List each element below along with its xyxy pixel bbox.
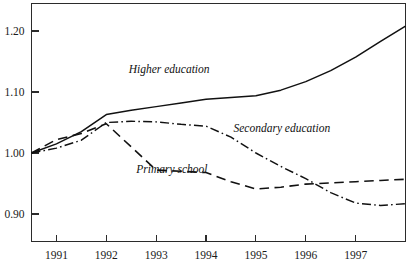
y-axis-tick-labels: 0.901.001.101.20 xyxy=(4,25,24,220)
x-axis-ticks xyxy=(56,235,355,242)
x-axis-tick-labels: 1991199219931994199519961997 xyxy=(45,249,367,261)
series-label-higher-education: Higher education xyxy=(128,63,210,76)
series-line-primary-school xyxy=(32,124,406,189)
series-label-primary-school: Primary school xyxy=(135,163,207,176)
y-tick-label: 1.00 xyxy=(4,147,24,159)
plot-frame xyxy=(32,4,406,242)
series-annotation-labels: Higher educationSecondary educationPrima… xyxy=(128,63,331,175)
series-line-higher-education xyxy=(32,26,406,153)
x-tick-label: 1991 xyxy=(45,249,68,261)
series-line-secondary-education xyxy=(32,121,406,205)
series-label-secondary-education: Secondary education xyxy=(233,122,330,135)
y-axis-ticks xyxy=(32,31,39,214)
y-tick-label: 0.90 xyxy=(4,208,24,220)
y-tick-label: 1.20 xyxy=(4,25,24,37)
x-tick-label: 1993 xyxy=(145,249,168,261)
data-series-group xyxy=(32,26,406,205)
line-chart: 0.901.001.101.20 19911992199319941995199… xyxy=(0,0,413,267)
x-tick-label: 1992 xyxy=(95,249,118,261)
chart-container: 0.901.001.101.20 19911992199319941995199… xyxy=(0,0,413,267)
x-tick-label: 1997 xyxy=(344,249,367,261)
x-tick-label: 1996 xyxy=(294,249,317,261)
x-tick-label: 1994 xyxy=(195,249,218,261)
x-tick-label: 1995 xyxy=(244,249,267,261)
axis-frame xyxy=(32,4,406,242)
y-tick-label: 1.10 xyxy=(4,86,24,98)
